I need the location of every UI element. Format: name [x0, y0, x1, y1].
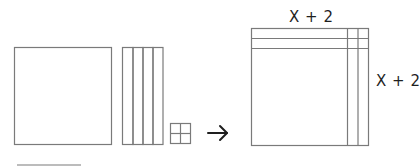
x-tile [153, 48, 163, 145]
completed-square [252, 29, 369, 146]
x-squared-tile [15, 48, 112, 145]
x-tile [123, 48, 134, 145]
x-tile [143, 48, 153, 145]
diagram-canvas [0, 0, 420, 168]
completed-square-outline [252, 29, 369, 146]
top-dimension-label: X + 2 [289, 10, 333, 25]
unit-tiles-group [171, 124, 191, 144]
arrow-right-icon [208, 126, 227, 140]
x-tiles-group [123, 48, 164, 145]
x-tile [133, 48, 143, 145]
side-dimension-label: X + 2 [376, 74, 420, 89]
